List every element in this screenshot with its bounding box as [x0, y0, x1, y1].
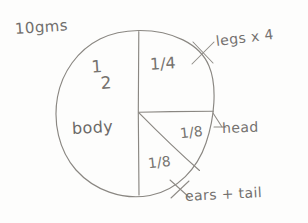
sketch-page: 10gms 1 2 body 1/4 legs x 4 1/8 head 1/8… — [0, 0, 308, 223]
leader-line-head — [213, 113, 222, 127]
slice-label-body: body — [72, 117, 114, 138]
pie-circle-outline — [56, 30, 214, 196]
fraction-label-legs: 1/4 — [150, 53, 177, 73]
fraction-label-head: 1/8 — [179, 123, 203, 141]
fraction-denominator-body: 2 — [100, 74, 112, 92]
divider-horizontal-right — [139, 111, 214, 112]
slice-label-head: head — [222, 119, 259, 136]
fraction-label-ears-tail: 1/8 — [147, 153, 171, 171]
total-weight-annotation: 10gms — [14, 16, 68, 38]
fraction-label-body: 1 2 — [95, 58, 108, 93]
